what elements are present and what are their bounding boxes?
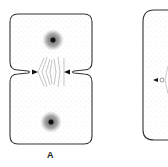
panel-label-a: A	[47, 150, 54, 160]
nucleus-upper	[51, 38, 56, 43]
cell-b	[143, 10, 168, 140]
nucleus-lower	[49, 120, 54, 125]
cell-division-diagram	[0, 0, 168, 167]
cell-a	[10, 14, 92, 144]
